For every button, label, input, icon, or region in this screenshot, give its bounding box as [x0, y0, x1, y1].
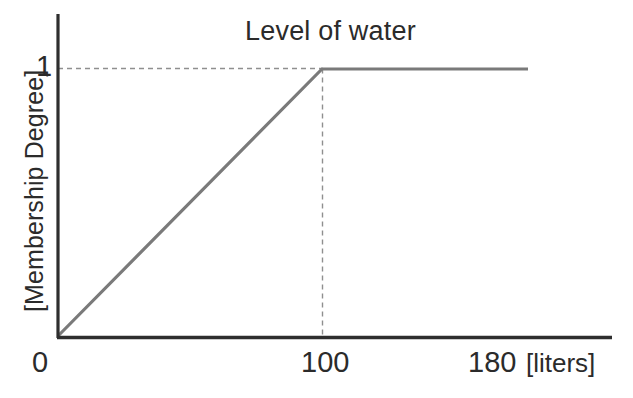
x-axis-tick-label-100: 100: [301, 348, 349, 377]
y-axis-title: [Membership Degree]: [22, 62, 47, 312]
y-axis-tick-label-1: 1: [36, 52, 52, 81]
chart-figure: Level of water [Membership Degree] 1 0 1…: [0, 0, 633, 398]
x-axis-unit-label: [liters]: [526, 350, 595, 376]
x-axis-tick-label-180: 180: [468, 348, 516, 377]
membership-function-line: [58, 69, 528, 336]
chart-title: Level of water: [245, 18, 416, 45]
x-axis-tick-label-0: 0: [32, 348, 48, 377]
chart-plot-area: [0, 0, 633, 398]
